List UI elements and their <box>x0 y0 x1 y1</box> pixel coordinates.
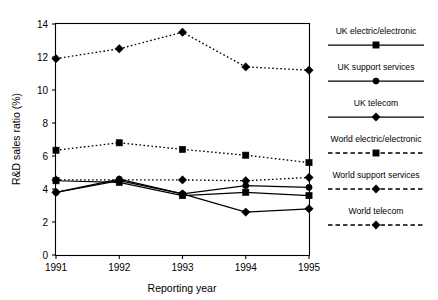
data-point-diamond <box>305 173 313 181</box>
data-point-diamond <box>305 66 313 74</box>
x-tick-label: 1995 <box>298 262 321 273</box>
data-point-square <box>53 147 59 153</box>
data-point-diamond <box>242 177 250 185</box>
legend-item-world-support-services[interactable]: World support services <box>328 170 424 193</box>
data-point-square <box>373 42 379 48</box>
data-point-circle <box>373 78 379 84</box>
data-point-diamond <box>115 45 123 53</box>
series-world-electric-electronic <box>53 140 312 166</box>
y-tick-label: 4 <box>42 184 48 195</box>
series-world-telecom <box>52 28 313 74</box>
data-point-diamond <box>52 54 60 62</box>
data-point-square <box>116 140 122 146</box>
series-world-support-services <box>52 173 313 185</box>
legend-label: UK electric/electronic <box>336 26 417 36</box>
x-axis: 19911992199319941995 <box>45 255 321 273</box>
y-tick-label: 0 <box>42 250 48 261</box>
data-point-diamond <box>178 176 186 184</box>
data-point-square <box>243 152 249 158</box>
data-point-circle <box>306 184 312 190</box>
data-point-diamond <box>372 221 380 229</box>
legend-label: World support services <box>332 170 419 180</box>
legend-item-uk-telecom[interactable]: UK telecom <box>328 98 424 121</box>
chart-figure: 02468101214 19911992199319941995 R&D sal… <box>0 0 438 300</box>
data-series-layer <box>52 28 313 216</box>
x-tick-label: 1993 <box>171 262 194 273</box>
legend-item-world-telecom[interactable]: World telecom <box>328 206 424 229</box>
y-tick-label: 6 <box>42 151 48 162</box>
x-tick-label: 1992 <box>108 262 131 273</box>
data-point-diamond <box>242 63 250 71</box>
y-tick-label: 12 <box>37 52 49 63</box>
y-tick-label: 10 <box>37 85 49 96</box>
data-point-square <box>243 189 249 195</box>
legend-label: World electric/electronic <box>330 134 422 144</box>
legend-label: World telecom <box>349 206 404 216</box>
legend-item-world-electric-electronic[interactable]: World electric/electronic <box>328 134 424 156</box>
x-tick-label: 1991 <box>45 262 68 273</box>
data-point-diamond <box>372 185 380 193</box>
y-tick-label: 14 <box>37 19 49 30</box>
y-tick-label: 8 <box>42 118 48 129</box>
data-point-square <box>373 150 379 156</box>
data-point-diamond <box>178 28 186 36</box>
legend-label: UK support services <box>338 62 415 72</box>
legend-item-uk-support-services[interactable]: UK support services <box>328 62 424 84</box>
series-line <box>56 32 309 70</box>
legend-item-uk-electric-electronic[interactable]: UK electric/electronic <box>328 26 424 48</box>
data-point-square <box>179 146 185 152</box>
chart-legend: UK electric/electronicUK support service… <box>328 26 424 229</box>
data-point-square <box>306 193 312 199</box>
legend-label: UK telecom <box>354 98 398 108</box>
plot-frame <box>56 24 310 256</box>
data-point-diamond <box>305 205 313 213</box>
x-tick-label: 1994 <box>235 262 258 273</box>
data-point-diamond <box>372 113 380 121</box>
data-point-diamond <box>242 208 250 216</box>
x-axis-title: Reporting year <box>148 282 217 294</box>
y-tick-label: 2 <box>42 217 48 228</box>
data-point-square <box>306 160 312 166</box>
line-chart: 02468101214 19911992199319941995 R&D sal… <box>0 0 438 300</box>
y-axis-title: R&D sales ratio (%) <box>10 93 22 185</box>
y-axis: 02468101214 <box>37 19 56 261</box>
